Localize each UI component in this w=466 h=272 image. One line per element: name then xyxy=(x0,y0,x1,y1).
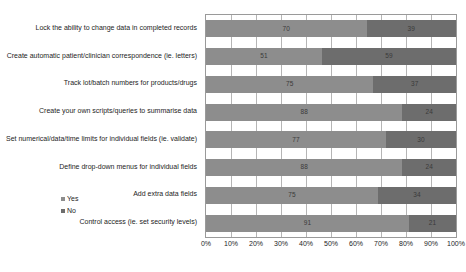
bar-value-label: 24 xyxy=(425,109,433,116)
legend-item[interactable]: No xyxy=(61,207,78,214)
x-tick-label: 30% xyxy=(274,240,288,247)
bar-value-label: 70 xyxy=(282,26,290,33)
x-tick-label: 70% xyxy=(374,240,388,247)
bar-value-label: 24 xyxy=(425,164,433,171)
category-label: Track lot/batch numbers for products/dru… xyxy=(64,79,197,87)
chart-legend: YesNo xyxy=(58,192,82,217)
bar-value-label: 75 xyxy=(288,192,296,199)
bar-segment-no: 24 xyxy=(402,159,456,176)
category-label: Add extra data fields xyxy=(133,190,197,198)
bar-segment-no: 21 xyxy=(409,215,456,232)
x-tick-label: 10% xyxy=(224,240,238,247)
bar-row: 8824 xyxy=(206,104,456,121)
bar-segment-no: 37 xyxy=(373,76,456,93)
category-label: Set numerical/data/time limits for indiv… xyxy=(6,135,197,143)
bar-segment-yes: 75 xyxy=(206,76,373,93)
bar-row: 7730 xyxy=(206,131,456,148)
legend-item[interactable]: Yes xyxy=(61,195,78,202)
bar-value-label: 75 xyxy=(286,81,294,88)
plot-area: 70395159753788247730882475349121 xyxy=(205,14,457,238)
bar-segment-yes: 88 xyxy=(206,104,402,121)
legend-label: No xyxy=(67,207,76,214)
bar-value-label: 34 xyxy=(413,192,421,199)
category-axis-labels: Lock the ability to change data in compl… xyxy=(0,14,201,238)
category-label: Control access (ie. set security levels) xyxy=(80,218,197,226)
category-label: Lock the ability to change data in compl… xyxy=(36,24,198,32)
category-label: Define drop-down menus for individual fi… xyxy=(59,163,197,171)
legend-swatch-icon xyxy=(61,209,65,213)
x-tick-label: 60% xyxy=(349,240,363,247)
bar-segment-yes: 70 xyxy=(206,20,367,37)
legend-label: Yes xyxy=(67,195,78,202)
bar-segment-no: 59 xyxy=(322,48,456,65)
x-tick-label: 50% xyxy=(324,240,338,247)
bar-value-label: 39 xyxy=(407,26,415,33)
legend-swatch-icon xyxy=(61,197,65,201)
x-tick-label: 90% xyxy=(424,240,438,247)
x-tick-label: 0% xyxy=(201,240,211,247)
bar-value-label: 91 xyxy=(304,220,312,227)
bar-value-label: 21 xyxy=(429,220,437,227)
x-tick-label: 100% xyxy=(447,240,465,247)
bar-value-label: 77 xyxy=(292,137,300,144)
bar-row: 5159 xyxy=(206,48,456,65)
bar-segment-no: 30 xyxy=(386,131,456,148)
bar-segment-yes: 77 xyxy=(206,131,386,148)
bar-segment-no: 34 xyxy=(378,187,456,204)
bar-row: 7537 xyxy=(206,76,456,93)
bar-row: 8824 xyxy=(206,159,456,176)
bar-value-label: 51 xyxy=(260,53,268,60)
bar-row: 7534 xyxy=(206,187,456,204)
bar-segment-no: 24 xyxy=(402,104,456,121)
stacked-bar-chart: Lock the ability to change data in compl… xyxy=(0,0,466,272)
x-tick-label: 80% xyxy=(399,240,413,247)
bar-segment-yes: 88 xyxy=(206,159,402,176)
category-label: Create automatic patient/clinician corre… xyxy=(7,52,197,60)
bar-value-label: 37 xyxy=(411,81,419,88)
x-tick-label: 20% xyxy=(249,240,263,247)
bar-value-label: 30 xyxy=(417,137,425,144)
bar-value-label: 88 xyxy=(300,164,308,171)
bar-value-label: 88 xyxy=(300,109,308,116)
bar-segment-no: 39 xyxy=(367,20,456,37)
bar-row: 9121 xyxy=(206,215,456,232)
bar-value-label: 59 xyxy=(385,53,393,60)
bar-rows: 70395159753788247730882475349121 xyxy=(206,15,456,237)
category-label: Create your own scripts/queries to summa… xyxy=(39,107,197,115)
x-axis-tick-labels: 0%10%20%30%40%50%60%70%80%90%100% xyxy=(205,240,457,256)
bar-segment-yes: 75 xyxy=(206,187,378,204)
bar-row: 7039 xyxy=(206,20,456,37)
bar-segment-yes: 91 xyxy=(206,215,409,232)
bar-segment-yes: 51 xyxy=(206,48,322,65)
x-tick-label: 40% xyxy=(299,240,313,247)
